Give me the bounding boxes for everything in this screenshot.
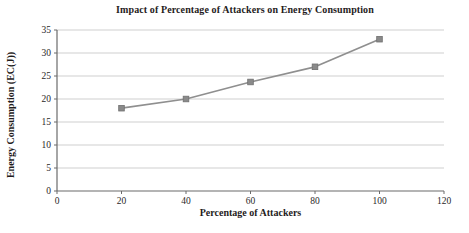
y-tick-label: 35 (42, 25, 52, 35)
data-point-marker (377, 36, 383, 42)
x-tick-label: 20 (117, 196, 127, 206)
y-tick-label: 30 (42, 48, 52, 58)
x-axis-label: Percentage of Attackers (57, 207, 444, 218)
x-tick-label: 80 (310, 196, 320, 206)
data-point-marker (312, 64, 318, 70)
x-tick-label: 60 (246, 196, 256, 206)
data-point-marker (119, 105, 125, 111)
y-tick-label: 10 (42, 140, 52, 150)
y-tick-label: 25 (42, 71, 52, 81)
line-chart-plot: 05101520253035020406080100120 (0, 0, 469, 233)
y-tick-label: 20 (42, 94, 52, 104)
y-tick-label: 0 (46, 186, 51, 196)
x-tick-label: 100 (372, 196, 387, 206)
series-line (122, 39, 380, 108)
x-tick-label: 120 (437, 196, 452, 206)
y-tick-label: 15 (42, 117, 52, 127)
x-tick-label: 40 (181, 196, 191, 206)
x-tick-label: 0 (55, 196, 60, 206)
y-tick-label: 5 (46, 163, 51, 173)
data-point-marker (183, 96, 189, 102)
data-point-marker (248, 79, 254, 85)
chart-figure: Impact of Percentage of Attackers on Ene… (0, 0, 469, 233)
